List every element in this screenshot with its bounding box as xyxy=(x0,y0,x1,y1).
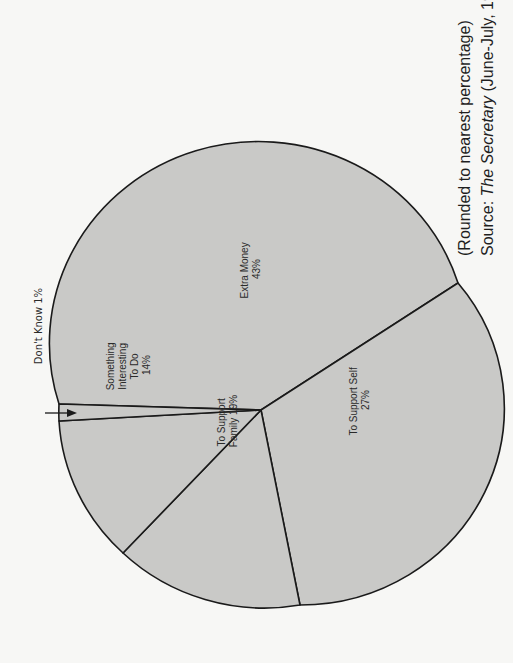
source-title: The Secretary xyxy=(479,95,496,196)
rounding-note: (Rounded to nearest percentage) xyxy=(456,20,473,256)
footnotes: (Rounded to nearest percentage) Source: … xyxy=(456,0,496,256)
source-note: Source: The Secretary (June-July, 198), … xyxy=(479,0,496,256)
label-dont-know: Don't Know 1% xyxy=(33,288,44,364)
source-prefix: Source: xyxy=(479,196,496,256)
pie-chart: Extra Money 43% To Support Self 27% To S… xyxy=(0,0,513,663)
label-support-family: To Support Family 19% xyxy=(216,395,239,447)
source-suffix: (June-July, 198), p. 16 xyxy=(479,0,496,91)
